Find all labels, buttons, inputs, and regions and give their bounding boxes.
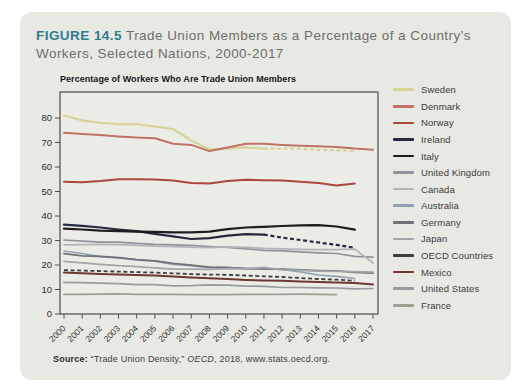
legend-item-mexico: Mexico	[393, 266, 493, 278]
plot-frame	[60, 92, 378, 314]
figure-title: FIGURE 14.5 Trade Union Members as a Per…	[36, 27, 495, 63]
source-line: Source: “Trade Union Density,” OECD, 201…	[53, 354, 330, 364]
legend-label: France	[421, 300, 451, 311]
legend-label: OECD Countries	[421, 250, 493, 261]
legend-swatch-icon	[393, 122, 414, 125]
series-line-france	[64, 294, 337, 295]
legend-item-ireland: Ireland	[393, 133, 493, 145]
legend-swatch-icon	[393, 188, 414, 191]
legend-label: Mexico	[421, 267, 452, 278]
legend-label: Canada	[421, 184, 455, 195]
y-tick-label: 70	[41, 136, 52, 147]
source-text-2: , 2018, www.stats.oecd.org.	[214, 354, 330, 364]
legend-swatch-icon	[393, 204, 414, 207]
x-tick-label: 2006	[156, 323, 177, 344]
x-tick-label: 2004	[120, 323, 141, 344]
figure-number: FIGURE 14.5	[36, 28, 122, 43]
x-tick-label: 2008	[192, 323, 213, 344]
legend-item-sweden: Sweden	[393, 84, 493, 96]
legend-swatch-icon	[393, 171, 414, 174]
legend-swatch-icon	[393, 238, 414, 241]
legend-label: Germany	[421, 217, 461, 228]
x-tick-label: 2007	[174, 323, 195, 344]
x-tick-label: 2015	[320, 323, 341, 344]
y-tick-label: 0	[47, 308, 52, 319]
x-tick-label: 2000	[47, 323, 68, 344]
legend-swatch-icon	[393, 254, 414, 257]
legend-swatch-icon	[393, 221, 414, 224]
legend-item-australia: Australia	[393, 200, 493, 212]
legend-label: Italy	[421, 151, 439, 162]
legend-swatch-icon	[393, 271, 414, 274]
legend-swatch-icon	[393, 287, 414, 290]
legend-item-denmark: Denmark	[393, 100, 493, 112]
x-tick-label: 2010	[229, 323, 250, 344]
legend-item-norway: Norway	[393, 117, 493, 129]
legend-label: Denmark	[421, 101, 460, 112]
source-text-1: “Trade Union Density,”	[88, 354, 187, 364]
legend-label: Sweden	[421, 84, 456, 95]
x-tick-label: 2009	[211, 323, 232, 344]
chart-title: Percentage of Workers Who Are Trade Unio…	[60, 74, 387, 84]
legend-swatch-icon	[393, 105, 414, 108]
source-text-italic: OECD	[187, 354, 214, 364]
chart-area: Percentage of Workers Who Are Trade Unio…	[33, 74, 497, 354]
y-tick-label: 20	[41, 259, 52, 270]
chart-legend: SwedenDenmarkNorwayIrelandItalyUnited Ki…	[393, 74, 493, 354]
legend-item-italy: Italy	[393, 150, 493, 162]
legend-item-united-kingdom: United Kingdom	[393, 167, 493, 179]
x-tick-label: 2013	[283, 323, 304, 344]
legend-item-france: France	[393, 299, 493, 311]
source-label: Source:	[53, 354, 88, 364]
x-tick-label: 2002	[83, 323, 104, 344]
x-tick-label: 2017	[356, 323, 377, 344]
x-tick-label: 2012	[265, 323, 286, 344]
legend-label: Australia	[421, 200, 459, 211]
x-tick-label: 2011	[247, 323, 267, 343]
y-tick-label: 30	[41, 234, 52, 245]
x-tick-label: 2014	[301, 323, 322, 344]
plot-column: Percentage of Workers Who Are Trade Unio…	[33, 74, 387, 354]
legend-label: Ireland	[421, 134, 451, 145]
x-tick-label: 2003	[101, 323, 122, 344]
figure-card: FIGURE 14.5 Trade Union Members as a Per…	[20, 12, 511, 380]
legend-swatch-icon	[393, 88, 414, 91]
y-tick-label: 60	[41, 161, 52, 172]
x-tick-label: 2005	[138, 323, 159, 344]
legend-label: Japan	[421, 233, 447, 244]
line-chart-canvas: 0102030405060708020002001200220032004200…	[33, 88, 387, 350]
x-tick-label: 2001	[65, 323, 86, 344]
legend-item-germany: Germany	[393, 216, 493, 228]
legend-item-united-states: United States	[393, 283, 493, 295]
y-tick-label: 50	[41, 185, 52, 196]
legend-swatch-icon	[393, 155, 414, 158]
legend-item-japan: Japan	[393, 233, 493, 245]
legend-label: United Kingdom	[421, 167, 490, 178]
legend-swatch-icon	[393, 138, 414, 141]
y-tick-label: 80	[41, 112, 52, 123]
y-tick-label: 10	[41, 283, 52, 294]
legend-swatch-icon	[393, 304, 414, 307]
legend-label: Norway	[421, 117, 454, 128]
y-tick-label: 40	[41, 210, 52, 221]
x-tick-label: 2016	[338, 323, 359, 344]
legend-item-oecd-countries: OECD Countries	[393, 250, 493, 262]
legend-label: United States	[421, 283, 479, 294]
legend-item-canada: Canada	[393, 183, 493, 195]
